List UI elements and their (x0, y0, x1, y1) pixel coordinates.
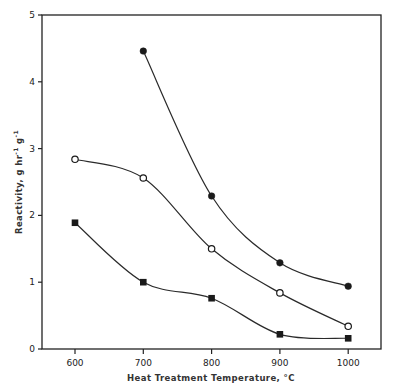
filled-square-marker (345, 335, 352, 342)
x-tick-label: 1000 (337, 358, 360, 368)
x-tick-label: 800 (203, 358, 220, 368)
x-axis-title: Heat Treatment Temperature, °C (127, 373, 295, 383)
x-tick-label: 600 (66, 358, 83, 368)
open-circle-marker (140, 175, 146, 181)
open-circle-marker (72, 156, 78, 162)
x-tick-label: 900 (271, 358, 288, 368)
filled-circle-marker (208, 193, 215, 200)
series-layer (72, 48, 352, 342)
open-circle-marker (345, 323, 351, 329)
filled-squares-curve (75, 223, 348, 339)
y-tick-label: 1 (29, 277, 35, 287)
open-circle-marker (277, 290, 283, 296)
y-axis: 012345 (29, 10, 42, 354)
open-circle-marker (208, 246, 214, 252)
filled-square-marker (277, 331, 284, 338)
y-tick-label: 5 (29, 10, 35, 20)
reactivity-chart: 012345 6007008009001000 Heat Treatment T… (0, 0, 394, 389)
y-axis-title-main: Reactivity, g hr (14, 154, 24, 234)
y-tick-label: 4 (29, 77, 35, 87)
filled-circle-marker (140, 48, 147, 55)
filled-square-marker (140, 279, 147, 286)
y-tick-label: 0 (29, 344, 35, 354)
y-axis-title-sup2: -1 (12, 130, 19, 137)
y-axis-title-sup1: -1 (12, 147, 19, 154)
filled-square-marker (72, 219, 79, 226)
x-axis: 6007008009001000 (66, 349, 360, 368)
filled-square-marker (208, 295, 215, 302)
y-axis-title-mid: g (14, 137, 24, 147)
x-tick-label: 700 (135, 358, 152, 368)
filled-circle-marker (277, 260, 284, 267)
filled-circles-curve (143, 51, 348, 286)
y-axis-title: Reactivity, g hr-1 g-1 (12, 130, 24, 234)
y-tick-label: 3 (29, 144, 35, 154)
y-tick-label: 2 (29, 210, 35, 220)
filled-circle-marker (345, 283, 352, 290)
